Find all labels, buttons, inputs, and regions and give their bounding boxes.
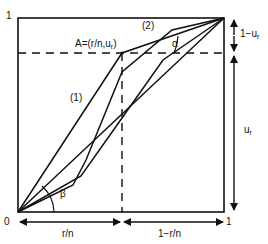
axis-label-origin: 0 <box>4 216 10 227</box>
ur-label: ur <box>244 124 252 136</box>
alpha-label: α <box>172 38 178 49</box>
beta-label: β <box>60 188 66 199</box>
one-minus-rn-label: 1−r/n <box>158 228 181 239</box>
one-minus-ur-sub: r <box>257 33 259 40</box>
axis-label-y-top: 1 <box>6 10 12 21</box>
curve-1-label: (1) <box>70 92 82 103</box>
one-minus-ur-text: 1−u <box>240 28 257 39</box>
diagonal-line <box>18 18 224 212</box>
one-minus-ur-label: 1−ur <box>240 28 259 40</box>
point-a-label: A=(r/n,ur) <box>75 38 117 50</box>
point-a-text: A=(r/n,u <box>75 38 111 49</box>
curve-2-label: (2) <box>142 20 154 31</box>
ur-sub: r <box>250 129 252 136</box>
axis-label-x-right: 1 <box>226 216 232 227</box>
rn-label: r/n <box>62 228 74 239</box>
point-a <box>121 52 124 55</box>
lorenz-diagram <box>0 0 268 244</box>
point-a-close: ) <box>113 38 116 49</box>
